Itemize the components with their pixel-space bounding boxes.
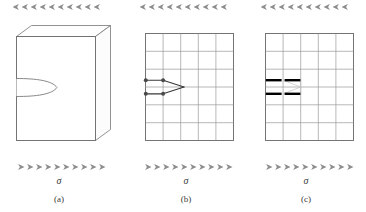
block-top-face: [17, 26, 111, 37]
bottom-load-arrows: [146, 150, 227, 167]
stress-symbol: σ: [184, 175, 190, 186]
top-load-arrows: [267, 7, 348, 24]
panel-b: σ (b): [122, 0, 244, 212]
crack-node: [144, 78, 148, 82]
crack-node: [144, 92, 148, 96]
mesh-grid: [266, 34, 354, 141]
top-load-arrows: [19, 7, 100, 24]
bottom-load-arrows: [267, 150, 348, 167]
panel-c: σ (c): [244, 0, 366, 212]
mesh-grid: [146, 34, 234, 141]
top-load-arrows: [146, 7, 227, 24]
crack-node: [161, 78, 165, 82]
panel-caption-a: (a): [54, 194, 64, 204]
panel-caption-c: (c): [301, 194, 311, 204]
block-right-face: [96, 26, 111, 141]
fracture-mechanics-figure: σ (a): [0, 0, 366, 212]
panel-caption-b: (b): [181, 194, 192, 204]
bottom-load-arrows: [19, 150, 100, 167]
crack-node: [161, 92, 165, 96]
panel-a: σ (a): [0, 0, 122, 212]
stress-symbol: σ: [57, 175, 63, 186]
stress-symbol: σ: [304, 175, 310, 186]
